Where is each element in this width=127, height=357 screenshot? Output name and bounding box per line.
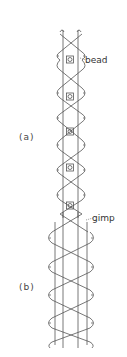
- panel-label-a: (a): [19, 133, 35, 142]
- bead-label: bead: [85, 56, 107, 65]
- braid-drawing: [0, 0, 127, 357]
- panel-label-b: (b): [19, 283, 35, 292]
- gimp-label: gimp: [92, 214, 115, 223]
